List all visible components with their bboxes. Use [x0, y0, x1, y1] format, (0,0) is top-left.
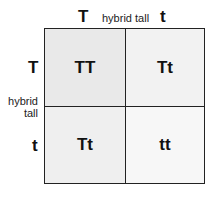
side-allele-t: t — [32, 137, 38, 154]
top-allele-t: t — [160, 8, 166, 25]
side-parent-label-2: tall — [24, 107, 38, 119]
cell-Tt-top: Tt — [126, 29, 204, 107]
cell-tt: tt — [126, 107, 204, 183]
top-allele-T: T — [78, 8, 88, 25]
cell-TT: TT — [45, 29, 126, 107]
side-allele-T: T — [28, 59, 38, 76]
top-parent-label: hybrid tall — [102, 12, 149, 24]
punnett-square: TT Tt Tt tt — [44, 28, 205, 184]
cell-Tt-bottom: Tt — [45, 107, 126, 183]
side-parent-label-1: hybrid — [8, 95, 38, 107]
